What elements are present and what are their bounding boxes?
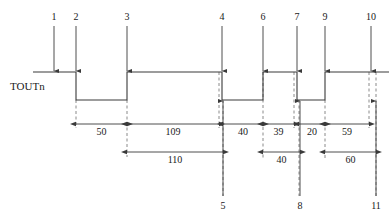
signal-label-toutn: TOUTn: [10, 80, 45, 92]
top-marker-label-10: 10: [366, 11, 376, 22]
top-marker-label-6: 6: [261, 11, 266, 22]
dimension-row1-label-40: 40: [238, 126, 248, 137]
timing-diagram: TOUTn 123467910581150109403920591104060: [0, 0, 389, 220]
dimension-row2-label-40: 40: [277, 154, 287, 165]
bottom-marker-label-8: 8: [298, 200, 303, 211]
dimension-row2-label-60: 60: [346, 154, 356, 165]
top-marker-label-4: 4: [220, 11, 225, 22]
timing-diagram-canvas: [0, 0, 389, 220]
top-marker-label-3: 3: [125, 11, 130, 22]
signal-waveform: [33, 72, 389, 100]
reference-dashed-lines: [76, 72, 376, 196]
dimension-row1-label-20: 20: [307, 126, 317, 137]
dimension-row1-label-59: 59: [342, 126, 352, 137]
bottom-marker-label-5: 5: [221, 200, 226, 211]
top-marker-label-2: 2: [74, 11, 79, 22]
dimension-row1-label-109: 109: [166, 126, 181, 137]
top-marker-label-7: 7: [295, 11, 300, 22]
bottom-event-arrows: [223, 101, 376, 196]
dimension-row2-label-110: 110: [168, 154, 183, 165]
top-event-arrows: [54, 26, 371, 71]
dimension-row1-label-50: 50: [97, 126, 107, 137]
dimension-row1-label-39: 39: [274, 126, 284, 137]
top-marker-label-9: 9: [323, 11, 328, 22]
top-marker-label-1: 1: [52, 11, 57, 22]
bottom-marker-label-11: 11: [371, 200, 381, 211]
